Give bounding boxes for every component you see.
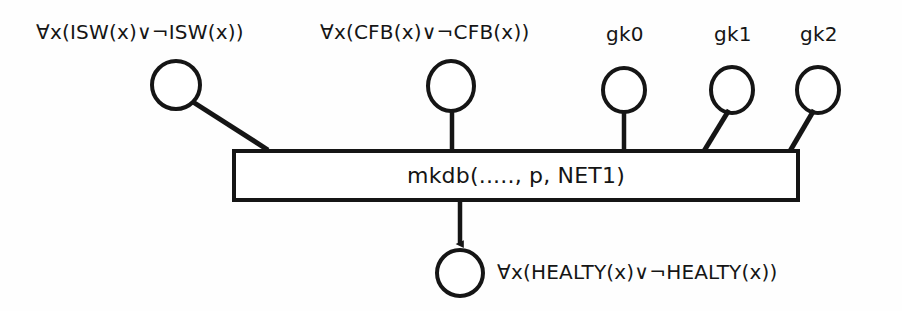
transition-label: mkdb(....., p, NET1) (234, 151, 798, 200)
place-label-cfb: ∀x(CFB(x)∨¬CFB(x)) (320, 22, 529, 42)
place-gk0[interactable] (603, 68, 645, 112)
arc-gk1-to-transition (704, 110, 729, 151)
arc-isw-to-transition (193, 102, 268, 150)
place-healty[interactable] (437, 250, 483, 296)
place-cfb[interactable] (428, 61, 474, 111)
place-label-isw: ∀x(ISW(x)∨¬ISW(x)) (36, 22, 244, 42)
place-gk1[interactable] (711, 67, 753, 113)
place-isw[interactable] (152, 61, 200, 109)
place-gk2[interactable] (797, 67, 839, 113)
place-label-gk2: gk2 (800, 24, 838, 44)
diagram-canvas: ∀x(ISW(x)∨¬ISW(x)) ∀x(CFB(x)∨¬CFB(x)) gk… (0, 0, 902, 311)
place-label-gk1: gk1 (714, 24, 752, 44)
place-label-healty: ∀x(HEALTY(x)∨¬HEALTY(x)) (497, 262, 778, 282)
place-label-gk0: gk0 (606, 24, 644, 44)
arc-gk2-to-transition (790, 110, 814, 151)
